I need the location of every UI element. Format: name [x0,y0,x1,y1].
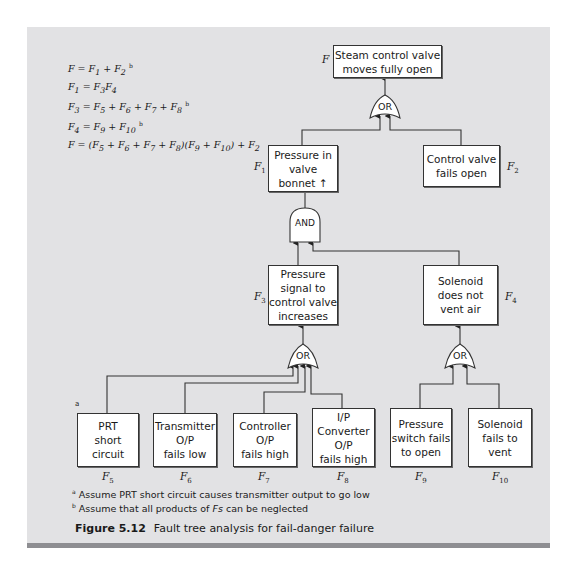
event-f4-solenoid-not-vent: Solenoid does not vent air [423,265,498,325]
footnote-b: b Assume that all products of Fs can be … [72,502,308,514]
event-f7-controller-fails-high: Controller O/P fails high [233,413,297,467]
label-f7: F7 [258,470,270,485]
or-gate-top-label: OR [370,101,400,112]
label-f8: F8 [337,470,349,485]
event-f8-ip-converter-fails-high: I/P Converter O/P fails high [312,408,375,467]
event-f6-transmitter-fails-low: Transmitter O/P fails low [153,413,217,467]
event-f3-pressure-signal-increases: Pressure signal to control valve increas… [268,265,338,325]
label-f5: F5 [102,470,114,485]
label-f3: F3 [254,290,266,305]
label-f10: F10 [492,470,508,485]
figure-caption: Figure 5.12Fault tree analysis for fail-… [75,522,374,535]
event-f5-prt-short-circuit: PRT short circuit [77,413,139,467]
event-top-steam-valve-open: Steam control valve moves fully open [333,45,442,78]
label-f: F [322,53,329,65]
event-f1-pressure-bonnet: Pressure in valve bonnet ↑ [268,145,338,192]
label-f9: F9 [415,470,427,485]
event-f9-pressure-switch-fails: Pressure switch fails to open [390,408,452,467]
and-gate-label: AND [290,218,320,228]
footnote-a: a Assume PRT short circuit causes transm… [72,488,370,500]
label-f6: F6 [180,470,192,485]
footnote-marker-a: a [75,400,79,408]
label-f4: F4 [505,290,517,305]
event-f10-solenoid-fails-to-vent: Solenoid fails to vent [468,408,532,467]
label-f2: F2 [507,160,519,175]
or-gate-f4-label: OR [445,350,475,361]
or-gate-f3-label: OR [288,350,318,361]
figure-number: Figure 5.12 [75,522,146,535]
label-f1: F1 [254,160,266,175]
figure-title: Fault tree analysis for fail-danger fail… [154,522,374,535]
event-f2-control-valve-fails-open: Control valve fails open [423,145,500,187]
